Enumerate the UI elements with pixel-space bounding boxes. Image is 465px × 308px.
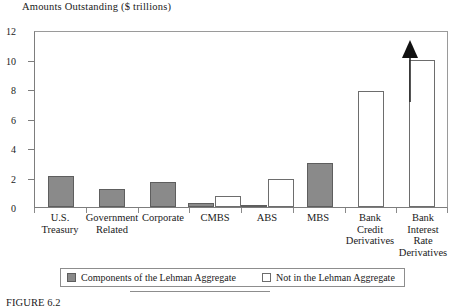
y-tick-label-4: 4 xyxy=(0,144,16,155)
figure-caption-text: FIGURE 6.2 xyxy=(6,297,61,308)
category-government-related xyxy=(86,32,137,207)
bar-bank-credit-derivatives-open[interactable] xyxy=(358,91,384,207)
category-bank-credit-derivatives xyxy=(345,32,396,207)
category-cmbs xyxy=(188,32,241,207)
legend-swatch-open-icon xyxy=(262,273,271,282)
figure-container: Amounts Outstanding ($ trillions) 12 10 … xyxy=(0,0,465,308)
category-abs xyxy=(241,32,294,207)
figure-caption: FIGURE 6.2 xyxy=(6,297,61,308)
bar-group xyxy=(35,32,447,207)
y-tick-label-12: 12 xyxy=(0,26,16,37)
y-tick-label-0: 0 xyxy=(0,203,16,214)
bar-us-treasury-shaded[interactable] xyxy=(48,176,74,207)
category-corporate xyxy=(137,32,188,207)
bar-mbs-shaded[interactable] xyxy=(307,163,333,207)
bar-cmbs-open[interactable] xyxy=(215,196,241,207)
legend: Components of the Lehman Aggregate Not i… xyxy=(60,268,405,287)
y-tick-label-8: 8 xyxy=(0,85,16,96)
bar-abs-open[interactable] xyxy=(268,179,294,207)
chart-title: Amounts Outstanding ($ trillions) xyxy=(22,1,171,12)
y-tick-label-6: 6 xyxy=(0,114,16,125)
bar-government-related-shaded[interactable] xyxy=(99,189,125,207)
plot-area xyxy=(34,31,448,208)
category-us-treasury xyxy=(35,32,86,207)
legend-entry-not-lehman[interactable]: Not in the Lehman Aggregate xyxy=(262,272,395,283)
legend-swatch-shaded-icon xyxy=(67,273,76,282)
caption-divider xyxy=(130,291,270,292)
y-tick-label-2: 2 xyxy=(0,173,16,184)
y-tick-label-10: 10 xyxy=(0,55,16,66)
up-arrow-icon xyxy=(399,40,421,102)
legend-label-lehman-components: Components of the Lehman Aggregate xyxy=(81,272,236,283)
legend-entry-lehman-components[interactable]: Components of the Lehman Aggregate xyxy=(67,272,236,283)
bar-cmbs-shaded[interactable] xyxy=(188,203,214,207)
category-mbs xyxy=(294,32,345,207)
legend-label-not-lehman: Not in the Lehman Aggregate xyxy=(276,272,395,283)
bar-abs-shaded[interactable] xyxy=(241,205,267,207)
bar-corporate-shaded[interactable] xyxy=(150,182,176,207)
x-label-bank-interest-rate-derivatives: Bank Interest Rate Derivatives xyxy=(388,212,458,258)
